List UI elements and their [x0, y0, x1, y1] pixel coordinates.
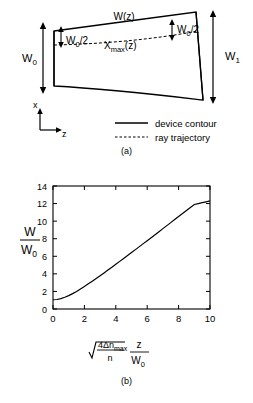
panel-b-chart: 024681012140246810 W W0 4Δnmax n z W0 — [20, 182, 215, 369]
y-tick-label: 12 — [37, 199, 47, 209]
label-output-width: W1 — [225, 50, 240, 65]
y-tick-label: 6 — [42, 252, 47, 262]
panel-a-schematic: W(z) W0 W1 W0/2 W0/2 Xmax(z) x z device … — [22, 10, 240, 143]
y-axis-label-denominator: W0 — [21, 243, 37, 259]
y-tick-label: 14 — [37, 182, 47, 192]
x-tick-label: 4 — [113, 313, 118, 324]
legend-label-ray-trajectory: ray trajectory — [155, 132, 210, 143]
tick-labels: 024681012140246810 — [37, 182, 215, 325]
w1-dimension-arrow — [210, 10, 216, 104]
panel-a-caption: (a) — [0, 146, 253, 156]
label-input-width: W0 — [22, 52, 37, 67]
legend-label-device-contour: device contour — [155, 118, 217, 129]
factor-numerator: z — [137, 339, 142, 350]
y-tick-label: 4 — [42, 269, 47, 279]
x-tick-label: 0 — [50, 313, 55, 324]
axis-ticks — [53, 186, 210, 309]
w0-dimension-arrow — [40, 22, 46, 94]
data-curve — [53, 201, 210, 300]
y-axis-label: W W0 — [20, 225, 40, 259]
label-ray-max: Xmax(z) — [104, 40, 137, 54]
panel-b-caption: (b) — [0, 376, 253, 386]
y-tick-label: 2 — [42, 287, 47, 297]
factor-denominator: W0 — [131, 355, 145, 369]
x-tick-label: 10 — [205, 313, 216, 324]
figure-container: W(z) W0 W1 W0/2 W0/2 Xmax(z) x z device … — [0, 0, 253, 403]
x-tick-label: 8 — [176, 313, 181, 324]
y-axis-label-numerator: W — [24, 225, 36, 239]
label-axis-x: x — [33, 100, 38, 110]
x-tick-label: 2 — [82, 313, 87, 324]
coordinate-axes — [37, 108, 62, 133]
x-tick-label: 6 — [145, 313, 150, 324]
radicand-denominator: n — [107, 353, 112, 363]
plot-frame — [53, 186, 210, 309]
label-half-width-left: W0/2 — [66, 35, 88, 49]
y-tick-label: 10 — [37, 217, 47, 227]
y-tick-label: 0 — [42, 305, 47, 315]
y-tick-label: 8 — [42, 234, 47, 244]
figure-svg: W(z) W0 W1 W0/2 W0/2 Xmax(z) x z device … — [0, 0, 253, 403]
label-width-profile: W(z) — [113, 11, 134, 22]
w0-half-right-arrow — [169, 19, 175, 41]
x-axis-label: 4Δnmax n z W0 — [89, 339, 149, 369]
label-half-width-right: W0/2 — [177, 24, 199, 38]
label-axis-z: z — [62, 129, 67, 139]
